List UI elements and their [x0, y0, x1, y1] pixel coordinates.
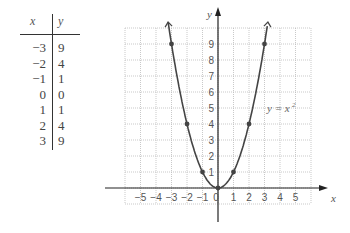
y-tick-label: 2 — [208, 151, 214, 162]
y-tick-label: 4 — [208, 119, 214, 130]
data-point — [216, 186, 221, 191]
x-tick-label: 1 — [231, 192, 237, 203]
parabola-chart: xy−5−4−3−2−1012345123456789y = x2 — [0, 0, 350, 233]
x-axis-label: x — [330, 192, 336, 204]
y-axis-label: y — [206, 8, 212, 20]
y-axis-arrow-icon — [215, 7, 221, 16]
y-tick-label: 1 — [208, 167, 214, 178]
x-tick-label: 2 — [246, 192, 252, 203]
y-tick-label: 3 — [208, 135, 214, 146]
y-tick-label: 9 — [208, 39, 214, 50]
x-tick-label: −2 — [181, 192, 193, 203]
data-point — [169, 42, 174, 47]
data-point — [185, 122, 190, 127]
equation-label: y = x — [266, 102, 290, 114]
equation-exponent: 2 — [292, 101, 296, 109]
y-tick-label: 6 — [208, 87, 214, 98]
data-point — [231, 170, 236, 175]
x-tick-label: 4 — [277, 192, 283, 203]
x-tick-label: −5 — [135, 192, 147, 203]
x-tick-label: 3 — [262, 192, 268, 203]
data-point — [200, 170, 205, 175]
x-tick-label: −1 — [197, 192, 209, 203]
data-point — [247, 122, 252, 127]
x-tick-label: 0 — [213, 192, 219, 203]
x-tick-label: 5 — [293, 192, 299, 203]
y-tick-label: 8 — [208, 55, 214, 66]
data-point — [262, 42, 267, 47]
x-tick-label: −3 — [166, 192, 178, 203]
y-tick-label: 7 — [208, 71, 214, 82]
x-axis-arrow-icon — [319, 185, 328, 191]
y-tick-label: 5 — [208, 103, 214, 114]
x-tick-label: −4 — [150, 192, 162, 203]
